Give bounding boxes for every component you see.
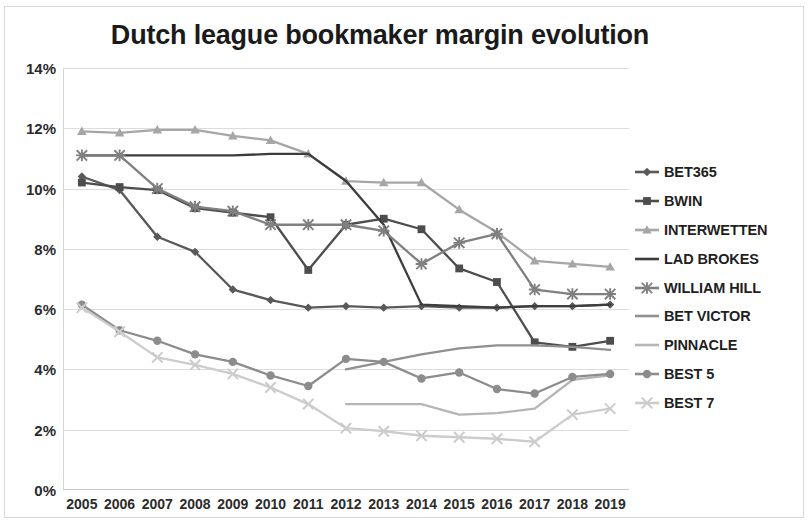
data-point-marker-asterisk xyxy=(189,201,201,213)
y-axis-tick-label: 12% xyxy=(4,120,56,137)
data-point-marker-cross xyxy=(303,399,313,409)
data-point-marker-circle xyxy=(530,389,538,397)
data-point-marker-asterisk xyxy=(641,282,653,294)
x-axis-tick-label: 2015 xyxy=(444,496,475,512)
series-line xyxy=(82,308,610,442)
x-axis-tick-label: 2017 xyxy=(519,496,550,512)
data-point-marker-asterisk xyxy=(114,150,126,162)
data-point-marker-circle xyxy=(455,368,463,376)
x-axis-tick-label: 2006 xyxy=(104,496,135,512)
data-point-marker-diamond xyxy=(380,303,388,311)
legend-item-bet-victor[interactable]: BET VICTOR xyxy=(634,302,810,331)
legend-marker-triangle-icon xyxy=(634,223,660,237)
legend-marker-diamond-icon xyxy=(634,165,660,179)
x-axis-tick-label: 2012 xyxy=(330,496,361,512)
legend-marker-line-icon xyxy=(634,309,660,323)
legend-label: BWIN xyxy=(664,193,702,209)
legend-item-william-hill[interactable]: WILLIAM HILL xyxy=(634,273,810,302)
x-axis-tick-label: 2005 xyxy=(66,496,97,512)
data-point-marker-asterisk xyxy=(227,205,239,217)
data-point-marker-circle xyxy=(380,358,388,366)
data-point-marker-square xyxy=(455,265,463,273)
legend-label: BEST 7 xyxy=(664,395,714,411)
data-point-marker-asterisk xyxy=(152,183,164,195)
x-axis-tick-label: 2018 xyxy=(557,496,588,512)
chart-screenshot: Dutch league bookmaker margin evolution … xyxy=(0,0,810,524)
data-point-marker-asterisk xyxy=(265,219,277,231)
chart-legend: BET365BWININTERWETTENLAD BROKESWILLIAM H… xyxy=(634,158,810,417)
legend-item-bwin[interactable]: BWIN xyxy=(634,187,810,216)
data-point-marker-diamond xyxy=(643,168,651,176)
series-bwin xyxy=(78,179,614,351)
data-point-marker-asterisk xyxy=(529,284,541,296)
legend-item-best-7[interactable]: BEST 7 xyxy=(634,388,810,417)
series-william-hill xyxy=(76,150,616,300)
x-axis-tick-label: 2019 xyxy=(595,496,626,512)
data-point-marker-asterisk xyxy=(340,219,352,231)
chart-title: Dutch league bookmaker margin evolution xyxy=(0,20,760,51)
data-point-marker-diamond xyxy=(342,302,350,310)
plot-area xyxy=(63,68,629,490)
data-point-marker-asterisk xyxy=(378,225,390,237)
data-point-marker-asterisk xyxy=(416,258,428,270)
legend-marker-asterisk-icon xyxy=(634,281,660,295)
data-point-marker-circle xyxy=(342,355,350,363)
data-point-marker-circle xyxy=(266,371,274,379)
data-point-marker-circle xyxy=(304,382,312,390)
x-axis-tick-label: 2011 xyxy=(293,496,323,512)
legend-marker-circle-icon xyxy=(634,367,660,381)
x-axis-tick-label: 2008 xyxy=(179,496,210,512)
series-line xyxy=(82,305,610,394)
data-point-marker-square xyxy=(493,278,501,286)
legend-item-best-5[interactable]: BEST 5 xyxy=(634,360,810,389)
data-point-marker-asterisk xyxy=(491,228,503,240)
data-point-marker-asterisk xyxy=(453,237,465,249)
data-point-marker-square xyxy=(116,183,124,191)
data-point-marker-circle xyxy=(417,374,425,382)
legend-label: LAD BROKES xyxy=(664,251,759,267)
y-axis-tick-label: 8% xyxy=(4,240,56,257)
data-point-marker-asterisk xyxy=(567,288,579,300)
data-point-marker-asterisk xyxy=(302,219,314,231)
legend-item-lad-brokes[interactable]: LAD BROKES xyxy=(634,244,810,273)
legend-marker-line-icon xyxy=(634,252,660,266)
data-point-marker-asterisk xyxy=(76,150,88,162)
data-point-marker-cross xyxy=(265,382,275,392)
data-point-marker-diamond xyxy=(266,296,274,304)
data-point-marker-circle xyxy=(606,370,614,378)
y-axis-tick-label: 10% xyxy=(4,180,56,197)
series-best-5 xyxy=(78,300,615,397)
x-axis-tick-label: 2016 xyxy=(481,496,512,512)
data-point-marker-circle xyxy=(191,350,199,358)
legend-marker-cross-icon xyxy=(634,396,660,410)
legend-item-bet365[interactable]: BET365 xyxy=(634,158,810,187)
y-axis-tick-label: 14% xyxy=(4,60,56,77)
y-axis-tick-label: 6% xyxy=(4,301,56,318)
x-axis-tick-label: 2007 xyxy=(142,496,173,512)
legend-label: BET VICTOR xyxy=(664,308,751,324)
series-line xyxy=(82,130,610,267)
x-axis-tick-label: 2010 xyxy=(255,496,286,512)
x-axis-tick-label: 2014 xyxy=(406,496,437,512)
data-point-marker-square xyxy=(418,225,426,233)
data-point-marker-asterisk xyxy=(604,288,616,300)
data-point-marker-circle xyxy=(643,370,651,378)
data-point-marker-circle xyxy=(229,358,237,366)
series-interwetten xyxy=(77,125,615,271)
legend-item-interwetten[interactable]: INTERWETTEN xyxy=(634,216,810,245)
series-plot-layer xyxy=(63,68,629,490)
legend-label: BEST 5 xyxy=(664,366,714,382)
data-point-marker-circle xyxy=(153,337,161,345)
legend-item-pinnacle[interactable]: PINNACLE xyxy=(634,331,810,360)
data-point-marker-square xyxy=(606,337,614,345)
legend-marker-line-icon xyxy=(634,338,660,352)
legend-marker-square-icon xyxy=(634,194,660,208)
data-point-marker-circle xyxy=(493,385,501,393)
y-axis-tick-label: 2% xyxy=(4,421,56,438)
legend-label: PINNACLE xyxy=(664,337,737,353)
series-line xyxy=(82,183,610,347)
series-line xyxy=(82,177,610,308)
data-point-marker-diamond xyxy=(304,303,312,311)
data-point-marker-circle xyxy=(568,373,576,381)
x-axis-tick-label: 2013 xyxy=(368,496,399,512)
